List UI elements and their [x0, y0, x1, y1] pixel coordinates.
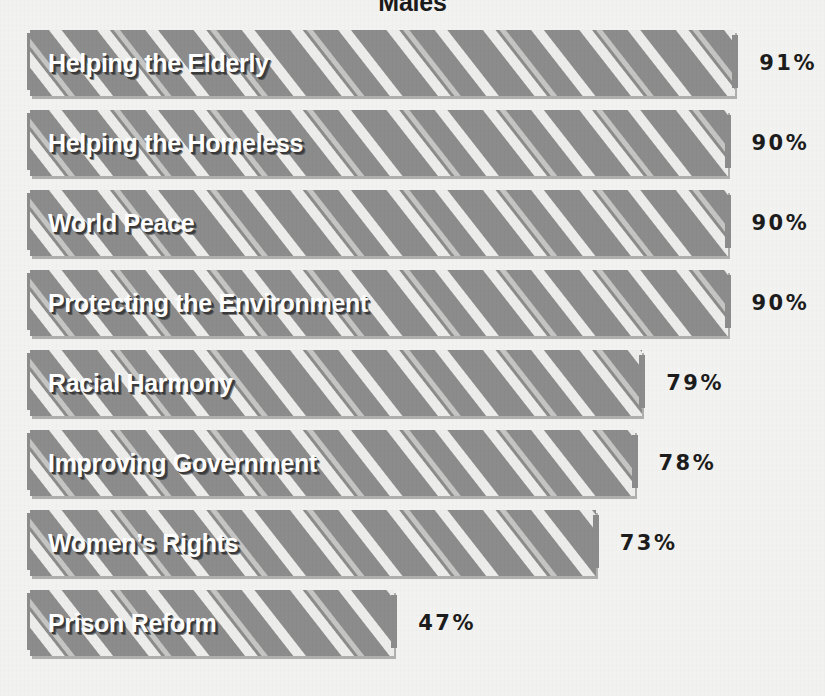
bar-row: Racial Harmony79% — [0, 350, 825, 416]
bar-row: Prison Reform47% — [0, 590, 825, 656]
bar-row: Protecting the Environment90% — [0, 270, 825, 336]
bar-value-label: 73% — [620, 531, 678, 555]
bar-value-label: 90% — [752, 291, 810, 315]
bar-value-label: 79% — [666, 371, 724, 395]
bar-category-label: Racial Harmony — [48, 369, 233, 398]
bar-value-label: 91% — [759, 51, 817, 75]
bar-value-label: 90% — [752, 131, 810, 155]
bar-chart-plot-area: Helping the Elderly91%Helping the Homele… — [0, 0, 825, 696]
bar-category-label: World Peace — [48, 209, 194, 238]
bar-row: Helping the Homeless90% — [0, 110, 825, 176]
bar-row: World Peace90% — [0, 190, 825, 256]
bar-category-label: Protecting the Environment — [48, 289, 368, 318]
bar-value-label: 90% — [752, 211, 810, 235]
bar-category-label: Improving Government — [48, 449, 317, 478]
bar-value-label: 47% — [418, 611, 476, 635]
chart-title: Males — [0, 0, 825, 17]
bar-row: Women’s Rights73% — [0, 510, 825, 576]
bar-category-label: Helping the Homeless — [48, 129, 303, 158]
bar-row: Helping the Elderly91% — [0, 30, 825, 96]
bar-row: Improving Government78% — [0, 430, 825, 496]
bar-category-label: Helping the Elderly — [48, 49, 269, 78]
bar-value-label: 78% — [659, 451, 717, 475]
bar-category-label: Prison Reform — [48, 609, 216, 638]
bar-category-label: Women’s Rights — [48, 529, 238, 558]
